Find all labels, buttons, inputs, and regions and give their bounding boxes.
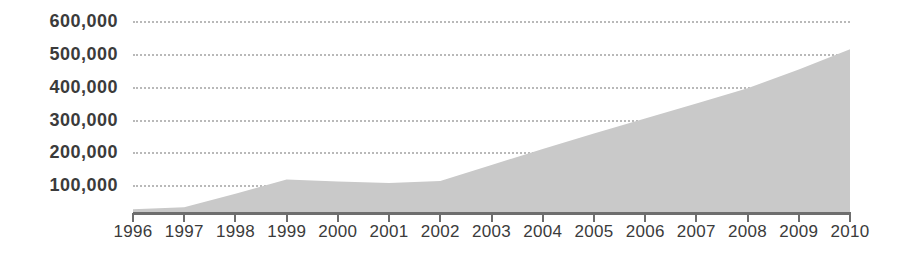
x-axis-tick-2005 [593, 213, 595, 222]
y-axis-label-500000: 500,000 [49, 44, 118, 65]
y-axis-label-300000: 300,000 [49, 110, 118, 131]
x-axis-label-2004: 2004 [523, 222, 562, 242]
x-axis-label-2007: 2007 [677, 222, 716, 242]
x-axis-label-2003: 2003 [472, 222, 511, 242]
x-axis-label-2005: 2005 [574, 222, 613, 242]
x-axis-label-1996: 1996 [113, 222, 152, 242]
x-axis-tick-2009 [798, 213, 800, 222]
x-axis-tick-1997 [183, 213, 185, 222]
x-axis-label-2010: 2010 [830, 222, 869, 242]
x-axis-tick-2003 [491, 213, 493, 222]
plot-area [133, 0, 850, 213]
x-axis-label-1999: 1999 [267, 222, 306, 242]
x-axis-tick-2010 [849, 213, 851, 222]
x-axis-tick-1996 [132, 213, 134, 222]
y-axis-label-600000: 600,000 [49, 11, 118, 32]
x-axis-tick-1998 [234, 213, 236, 222]
y-axis-label-200000: 200,000 [49, 142, 118, 163]
x-axis-tick-2006 [644, 213, 646, 222]
x-axis-label-2002: 2002 [421, 222, 460, 242]
x-axis-label-2001: 2001 [370, 222, 409, 242]
y-axis-label-400000: 400,000 [49, 77, 118, 98]
y-axis-label-100000: 100,000 [49, 175, 118, 196]
x-axis-label-2006: 2006 [626, 222, 665, 242]
x-axis-tick-2004 [542, 213, 544, 222]
x-axis-label-2009: 2009 [779, 222, 818, 242]
x-axis-tick-2001 [388, 213, 390, 222]
x-axis-tick-2000 [337, 213, 339, 222]
area-chart: 600,000 500,000 400,000 300,000 200,000 … [0, 0, 905, 255]
x-axis-label-1997: 1997 [165, 222, 204, 242]
x-axis-tick-2002 [439, 213, 441, 222]
x-axis-tick-2007 [695, 213, 697, 222]
x-axis-tick-2008 [747, 213, 749, 222]
x-axis-label-2008: 2008 [728, 222, 767, 242]
x-axis-tick-1999 [286, 213, 288, 222]
area-series-total [133, 0, 850, 213]
x-axis-label-1998: 1998 [216, 222, 255, 242]
x-axis-label-2000: 2000 [318, 222, 357, 242]
